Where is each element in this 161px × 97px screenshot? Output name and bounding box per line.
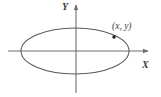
point-marker	[112, 35, 115, 38]
x-axis-label: X	[142, 60, 149, 70]
figure-canvas	[0, 0, 161, 97]
ellipse-figure: Y X (x, y)	[0, 0, 161, 97]
y-axis-label: Y	[62, 2, 68, 12]
point-coordinate-label: (x, y)	[112, 22, 132, 32]
